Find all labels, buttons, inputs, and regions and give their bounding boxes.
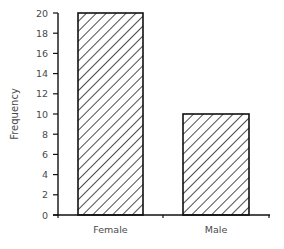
y-tick-label: 6 [42,149,48,160]
y-tick-label: 18 [36,28,48,39]
y-tick-label: 10 [36,109,48,120]
y-tick-label: 2 [42,189,48,200]
x-tick-label: Male [205,224,228,235]
bar-male [183,114,249,215]
bars-group [78,13,249,215]
bar-chart: FemaleMale02468101214161820 Frequency [0,0,284,249]
y-tick-label: 4 [42,169,48,180]
y-tick-label: 8 [42,129,48,140]
y-tick-label: 0 [42,210,48,221]
x-tick-label: Female [93,224,128,235]
y-tick-label: 20 [36,8,48,19]
y-tick-label: 14 [36,68,48,79]
y-tick-label: 12 [36,88,48,99]
y-axis-label: Frequency [9,88,20,140]
y-tick-label: 16 [36,48,48,59]
bar-female [78,13,143,215]
